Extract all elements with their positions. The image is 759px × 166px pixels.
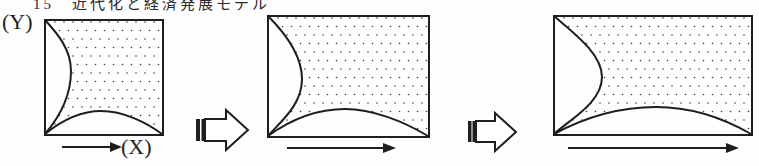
- stage-3-panel: [553, 15, 754, 138]
- tail-bar-icon: [468, 121, 472, 142]
- figure-caption: 15 近代化と経済発展モデル: [33, 0, 270, 13]
- stage-2-panel: [267, 15, 431, 139]
- stage-1-x-arrow: [60, 140, 124, 154]
- y-axis-label: (Y): [2, 9, 33, 35]
- arrowhead-icon: [110, 142, 122, 152]
- block-arrow-outline: [476, 113, 516, 151]
- stage-1-panel: [44, 19, 165, 137]
- x-axis-label: (X): [121, 134, 152, 160]
- transition-arrow-2: [466, 111, 518, 154]
- transition-arrow-1: [194, 108, 250, 153]
- tail-bar-icon: [473, 121, 476, 142]
- stage-2-x-arrow: [285, 141, 399, 155]
- figure-canvas: 15 近代化と経済発展モデル (Y) (X): [0, 0, 759, 166]
- arrowhead-icon: [726, 143, 739, 153]
- stage-3-x-arrow: [566, 141, 742, 155]
- block-arrow-outline: [205, 110, 248, 150]
- arrowhead-icon: [383, 143, 396, 153]
- tail-bar-icon: [202, 119, 206, 141]
- tail-bar-icon: [196, 119, 200, 141]
